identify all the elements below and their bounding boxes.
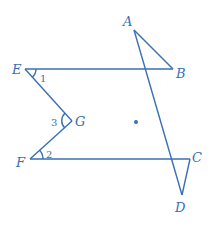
angle-1-arc: [32, 69, 36, 77]
angle-label-1: 1: [40, 73, 46, 84]
angle-3-arc: [62, 113, 65, 127]
angle-label-3: 3: [51, 117, 57, 128]
angle-2-arc: [40, 150, 43, 159]
label-G: G: [75, 114, 85, 129]
diagram-svg: A B C D E F G 1 2 3: [0, 0, 210, 228]
label-C: C: [192, 150, 202, 165]
segment-CD: [182, 159, 190, 195]
label-B: B: [175, 66, 186, 81]
label-A: A: [122, 14, 132, 29]
label-E: E: [11, 62, 22, 77]
geometry-diagram: A B C D E F G 1 2 3: [0, 0, 210, 228]
angle-label-2: 2: [46, 149, 52, 160]
label-F: F: [15, 155, 26, 170]
label-D: D: [174, 200, 186, 215]
center-dot: [134, 120, 138, 124]
